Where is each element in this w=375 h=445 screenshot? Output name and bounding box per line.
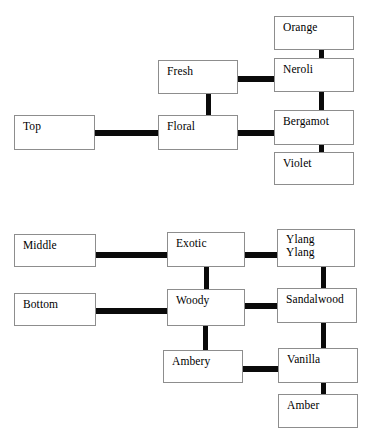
node-orange[interactable]: Orange bbox=[274, 16, 354, 50]
connector-woody-sandalwood bbox=[243, 303, 279, 309]
node-ylang-ylang[interactable]: Ylang Ylang bbox=[277, 229, 355, 267]
connector-bottom-woody bbox=[94, 308, 169, 314]
connector-fresh-floral bbox=[206, 92, 211, 117]
node-neroli[interactable]: Neroli bbox=[274, 58, 354, 92]
connector-sandalwood-vanilla bbox=[321, 321, 326, 350]
connector-neroli-bergamot bbox=[319, 90, 324, 112]
connector-exotic-ylang bbox=[243, 252, 279, 258]
node-vanilla[interactable]: Vanilla bbox=[278, 348, 358, 383]
node-bergamot[interactable]: Bergamot bbox=[274, 110, 354, 145]
connector-exotic-woody bbox=[204, 265, 209, 291]
node-woody[interactable]: Woody bbox=[167, 289, 245, 326]
connector-top-floral bbox=[93, 130, 160, 136]
node-exotic[interactable]: Exotic bbox=[167, 232, 245, 267]
connector-ylang-sandalwood bbox=[321, 265, 326, 290]
node-sandalwood[interactable]: Sandalwood bbox=[277, 288, 357, 323]
node-top[interactable]: Top bbox=[14, 115, 95, 150]
node-bottom[interactable]: Bottom bbox=[14, 293, 96, 326]
connector-woody-ambery bbox=[203, 324, 208, 352]
connector-ambery-vanilla bbox=[241, 366, 280, 372]
node-ambery[interactable]: Ambery bbox=[163, 350, 243, 383]
node-floral[interactable]: Floral bbox=[158, 115, 238, 150]
node-amber[interactable]: Amber bbox=[278, 394, 358, 428]
node-middle[interactable]: Middle bbox=[14, 234, 96, 267]
node-violet[interactable]: Violet bbox=[274, 152, 354, 185]
connector-fresh-neroli bbox=[235, 76, 277, 82]
node-fresh[interactable]: Fresh bbox=[158, 60, 238, 94]
connector-middle-exotic bbox=[94, 252, 169, 258]
fragrance-notes-diagram: OrangeNeroliFreshBergamotTopFloralViolet… bbox=[0, 0, 375, 445]
connector-floral-bergamot bbox=[236, 130, 277, 136]
